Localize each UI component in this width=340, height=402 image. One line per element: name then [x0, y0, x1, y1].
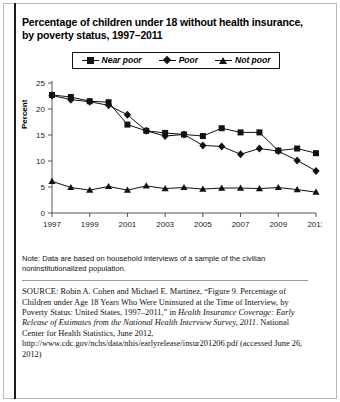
svg-text:2001: 2001	[119, 220, 137, 229]
legend-label-poor: Poor	[179, 55, 198, 65]
svg-text:10: 10	[36, 157, 45, 166]
legend-item-poor[interactable]: Poor	[159, 55, 198, 65]
figure-source: SOURCE: Robin A. Cohen and Michael E. Ma…	[22, 286, 312, 360]
line-chart: 0510152025199719992001200320052007200920…	[22, 77, 322, 245]
svg-text:2005: 2005	[194, 220, 212, 229]
legend-container: Near poor Poor Not poor	[22, 52, 330, 69]
source-label: SOURCE:	[22, 286, 58, 296]
legend-item-not-poor[interactable]: Not poor	[215, 55, 270, 65]
legend-item-near-poor[interactable]: Near poor	[82, 55, 142, 65]
svg-text:0: 0	[41, 209, 46, 218]
svg-text:20: 20	[36, 105, 45, 114]
figure-panel: Percentage of children under 18 without …	[0, 0, 340, 402]
svg-text:15: 15	[36, 131, 45, 140]
diamond-marker-icon	[159, 56, 176, 65]
figure-title: Percentage of children under 18 without …	[22, 3, 308, 42]
triangle-marker-icon	[215, 56, 232, 65]
svg-text:25: 25	[36, 79, 45, 88]
svg-text:1997: 1997	[43, 220, 61, 229]
svg-text:2011: 2011	[307, 220, 322, 229]
svg-text:5: 5	[41, 183, 46, 192]
figure-note: Note: Data are based on household interv…	[22, 254, 310, 273]
svg-text:2003: 2003	[156, 220, 174, 229]
square-marker-icon	[82, 56, 99, 65]
svg-text:2009: 2009	[269, 220, 287, 229]
source-divider	[22, 280, 308, 281]
svg-text:2007: 2007	[232, 220, 250, 229]
legend-label-not-poor: Not poor	[235, 55, 270, 65]
legend-label-near-poor: Near poor	[102, 55, 142, 65]
chart-legend: Near poor Poor Not poor	[72, 52, 281, 69]
plot-area: Percent 05101520251997199920012003200520…	[22, 77, 330, 245]
svg-text:1999: 1999	[81, 220, 99, 229]
